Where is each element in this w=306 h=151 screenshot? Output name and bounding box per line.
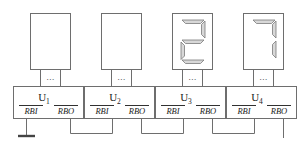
segment-d-3 (182, 60, 204, 64)
bus-dots-2: ... (117, 72, 125, 82)
pin-rbi-2: RBI (94, 106, 109, 116)
pin-rbo-1: RBO (57, 106, 75, 116)
pin-rbo-3: RBO (199, 106, 217, 116)
segment-g-3 (182, 40, 204, 44)
rbo-to-rbi-link-2 (142, 119, 184, 134)
pin-rbi-4: RBI (236, 106, 251, 116)
segment-a-3 (182, 20, 204, 24)
pin-rbi-3: RBI (165, 106, 180, 116)
segment-e-3 (181, 42, 185, 60)
pin-rbo-2: RBO (128, 106, 146, 116)
segment-a-4 (253, 20, 275, 24)
segment-b-3 (202, 21, 206, 38)
display-box-1 (31, 14, 71, 70)
rbo-to-rbi-link-1 (71, 119, 113, 134)
rbo-to-rbi-link-3 (213, 119, 255, 134)
bus-dots-1: ... (46, 72, 54, 82)
display-box-2 (102, 14, 142, 70)
stage-4: ... U4 RBI RBO (227, 14, 297, 139)
bus-dots-4: ... (259, 72, 267, 82)
pin-rbo-4: RBO (270, 106, 288, 116)
segment-c-4 (273, 41, 277, 58)
bus-dots-3: ... (188, 72, 196, 82)
pin-rbi-1: RBI (23, 106, 38, 116)
segment-b-4 (273, 21, 277, 38)
circuit-diagram: ... U1 RBI RBO ... U2 RBI RBO (0, 0, 306, 151)
diagram-canvas: ... U1 RBI RBO ... U2 RBI RBO (0, 0, 306, 151)
